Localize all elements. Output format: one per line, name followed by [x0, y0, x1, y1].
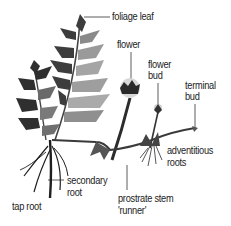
label-secondary-root-line2: root	[67, 187, 82, 198]
label-adventitious-roots-line1: adventitious	[167, 145, 213, 156]
label-foliage-leaf: foliage leaf	[112, 11, 154, 22]
label-secondary-root-line1: secondary	[67, 175, 107, 186]
plant-illustration	[0, 0, 231, 226]
label-flower-bud-line2: bud	[148, 70, 163, 81]
label-prostrate-stem-line2: 'runner'	[118, 205, 146, 216]
label-prostrate-stem-line1: prostrate stem	[118, 193, 173, 204]
foliage-leaf-secondary	[16, 60, 60, 140]
adventitious-roots	[140, 146, 162, 166]
plant-diagram: foliage leaf flower flower bud terminal …	[0, 0, 231, 226]
label-adventitious-roots-line2: roots	[167, 157, 186, 168]
label-terminal-bud-line2: bud	[185, 91, 200, 102]
foliage-leaf-main	[50, 14, 110, 140]
label-tap-root: tap root	[12, 201, 41, 212]
label-flower: flower	[117, 39, 140, 50]
root-system	[20, 140, 68, 198]
